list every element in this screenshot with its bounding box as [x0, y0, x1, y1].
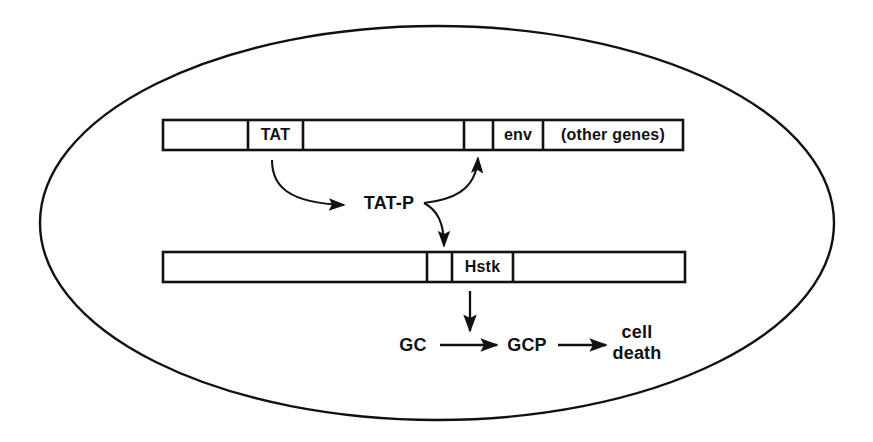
segment-label-hstk: Hstk — [465, 259, 500, 276]
cell-boundary-ellipse — [40, 26, 834, 420]
segment-label-tat: TAT — [261, 127, 290, 144]
cell-boundary-ellipse — [40, 26, 834, 420]
node-label-gcp: GCP — [507, 336, 547, 355]
node-label-tat-protein: TAT-P — [364, 194, 414, 213]
arrow-tat-protein-to-viral-tar — [424, 158, 478, 203]
segment-label-other-genes: (other genes) — [561, 127, 665, 144]
diagram-canvas: TATenv(other genes)HstkTAT-PGCGCPcelldea… — [0, 0, 873, 442]
construct-bar-therapeutic-construct — [163, 252, 685, 282]
node-label-cell-death: celldeath — [612, 322, 661, 363]
arrow-tat-protein-to-construct-tar — [424, 203, 444, 246]
construct-bars — [163, 120, 685, 282]
node-label-gc: GC — [399, 336, 426, 355]
arrow-tat-gene-to-tat-protein — [272, 160, 344, 205]
segment-label-env: env — [504, 127, 532, 144]
diagram-vector-layer — [0, 0, 873, 442]
